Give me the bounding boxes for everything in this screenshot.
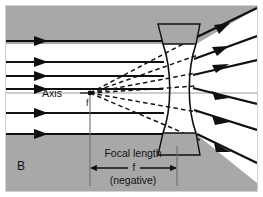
focal-point-dot	[88, 91, 93, 96]
axis-label: Axis	[42, 87, 62, 99]
optics-figure-panel-b: B Axis f Focal length f (negative)	[0, 0, 263, 197]
negative-note-label: (negative)	[110, 174, 157, 186]
focal-length-label: Focal length	[104, 147, 161, 159]
diverging-lens-diagram: B Axis f Focal length f (negative)	[0, 0, 263, 197]
panel-label-b: B	[17, 159, 25, 173]
lens-bottom-flange	[158, 133, 200, 155]
focal-length-symbol: f	[133, 162, 136, 173]
lens-top-flange	[158, 24, 200, 44]
